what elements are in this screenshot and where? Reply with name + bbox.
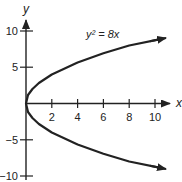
x-axis-label: x <box>175 96 182 110</box>
chart-canvas: 2 4 6 8 10 10 5 −5 −10 y x y² = 8x <box>0 0 182 182</box>
y-tick-label: 10 <box>6 25 18 37</box>
x-tick-label: 10 <box>149 111 161 123</box>
x-tick-label: 8 <box>126 111 132 123</box>
x-tick-label: 6 <box>100 111 106 123</box>
y-tick-label: 5 <box>12 61 18 73</box>
y-axis-label: y <box>22 2 30 16</box>
parabola-chart: 2 4 6 8 10 10 5 −5 −10 y x y² = 8x <box>0 0 182 182</box>
y-tick-label: −5 <box>5 134 18 146</box>
y-tick-label: −10 <box>0 170 18 182</box>
x-tick-label: 2 <box>49 111 55 123</box>
equation-annotation: y² = 8x <box>85 28 120 40</box>
x-tick-label: 4 <box>75 111 81 123</box>
